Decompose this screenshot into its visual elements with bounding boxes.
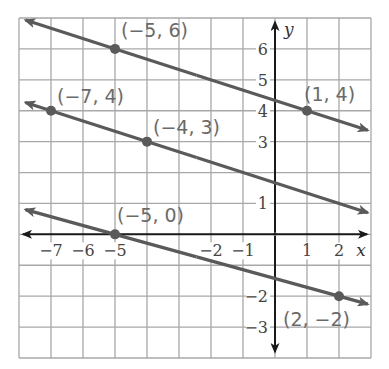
y-axis-label: y (283, 19, 294, 39)
x-tick-label: −5 (103, 241, 127, 260)
point-label: (−4, 3) (153, 116, 220, 138)
y-tick-label: 6 (258, 40, 268, 59)
y-tick-label: 1 (258, 194, 268, 213)
x-axis-label: x (356, 240, 366, 260)
point-label: (−5, 6) (121, 19, 188, 41)
data-point (142, 137, 152, 147)
y-tick-label: 5 (258, 71, 268, 90)
data-point (110, 44, 120, 54)
point-label: (−5, 0) (117, 204, 184, 226)
coordinate-graph: −7−6−5−2−112x65431−2−3y (−5, 6)(1, 4)(−7… (0, 0, 389, 369)
data-point (334, 291, 344, 301)
x-tick-label: −6 (71, 241, 95, 260)
y-tick-label: −2 (244, 287, 268, 306)
x-tick-label: 1 (302, 241, 312, 260)
x-tick-label: 2 (334, 241, 344, 260)
x-tick-label: −1 (231, 241, 255, 260)
x-tick-label: −7 (39, 241, 63, 260)
y-tick-label: 4 (258, 102, 268, 121)
data-point (110, 229, 120, 239)
data-point (302, 106, 312, 116)
point-label: (−7, 4) (57, 85, 124, 107)
data-point (46, 106, 56, 116)
point-label: (1, 4) (304, 83, 355, 105)
y-tick-label: 3 (258, 133, 268, 152)
y-tick-label: −3 (244, 318, 268, 337)
point-label: (2, −2) (283, 308, 350, 330)
